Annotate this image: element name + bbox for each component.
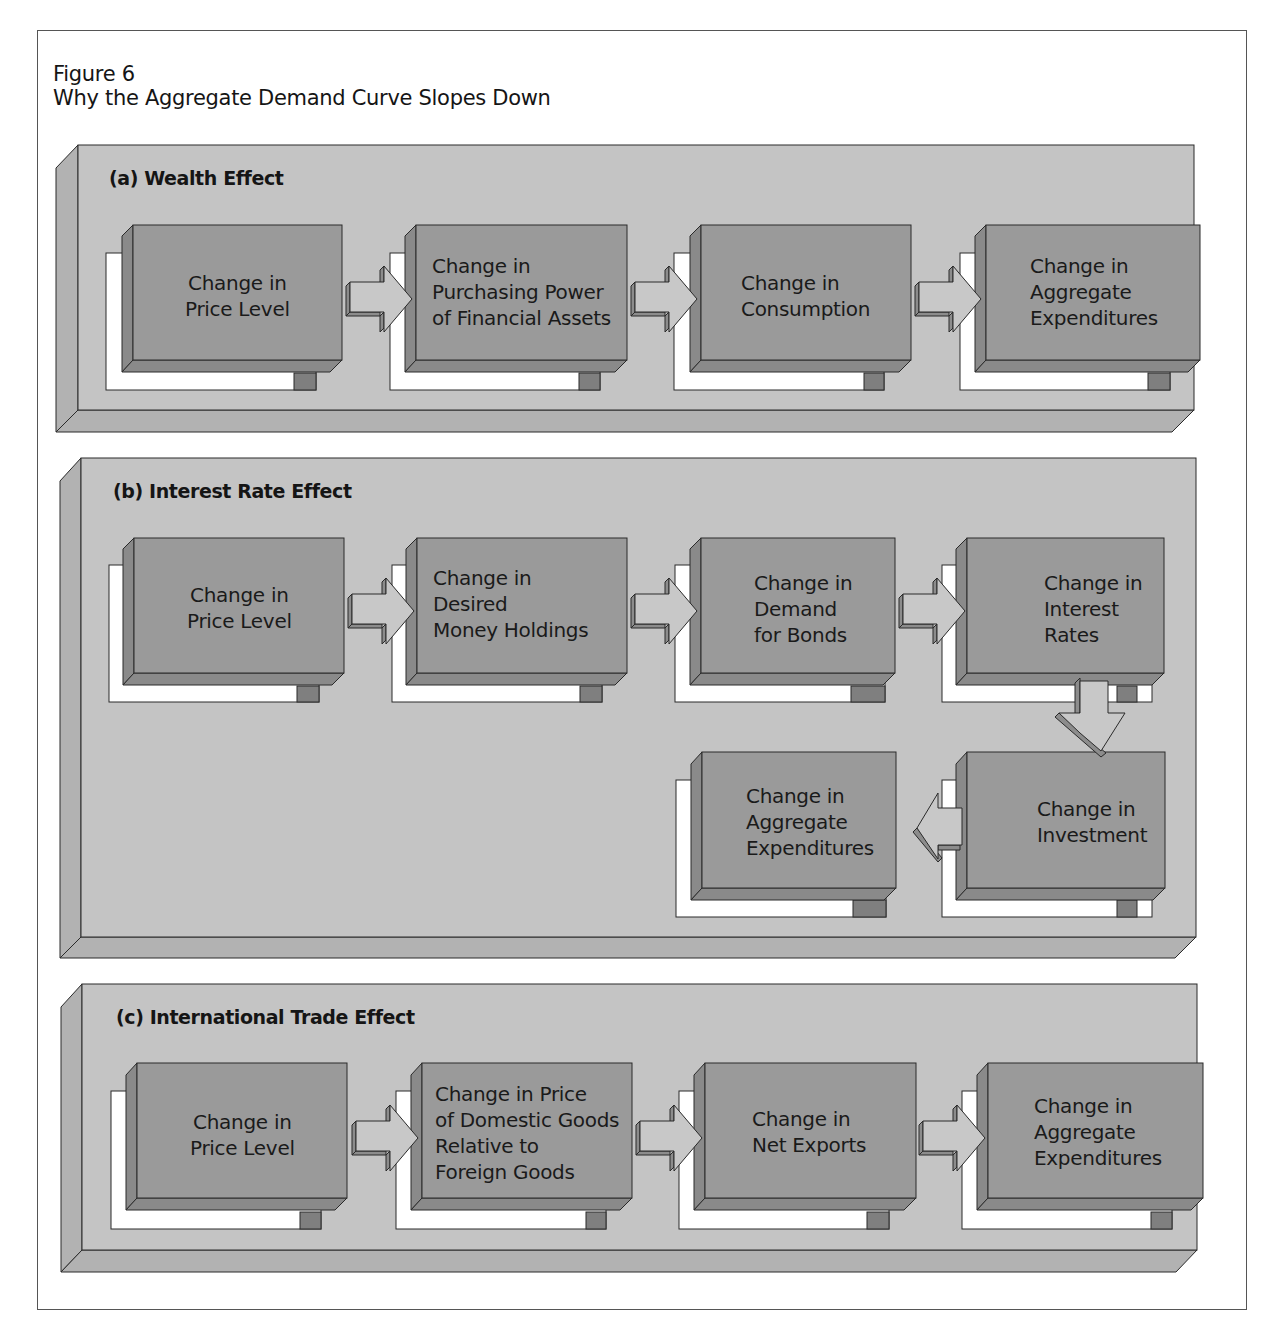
- panel-b-title: (b) Interest Rate Effect: [113, 480, 352, 502]
- box-c-2-label: Change in Price of Domestic Goods Relati…: [435, 1081, 619, 1185]
- box-b-2-label: Change in Desired Money Holdings: [433, 565, 588, 643]
- box-b-3-label: Change in Demand for Bonds: [754, 570, 852, 648]
- box-a-4-label: Change in Aggregate Expenditures: [1030, 253, 1158, 331]
- box-b-6-label: Change in Aggregate Expenditures: [746, 783, 874, 861]
- box-a-2-label: Change in Purchasing Power of Financial …: [432, 253, 611, 331]
- box-b-4-label: Change in Interest Rates: [1044, 570, 1142, 648]
- box-a-3-label: Change in Consumption: [741, 270, 870, 322]
- box-c-1-label: Change in Price Level: [190, 1109, 295, 1161]
- panel-a-title: (a) Wealth Effect: [109, 167, 283, 189]
- box-b-5-label: Change in Investment: [1037, 796, 1147, 848]
- box-c-4-label: Change in Aggregate Expenditures: [1034, 1093, 1162, 1171]
- panel-c-title: (c) International Trade Effect: [116, 1006, 415, 1028]
- box-a-1-label: Change in Price Level: [185, 270, 290, 322]
- box-b-1-label: Change in Price Level: [187, 582, 292, 634]
- box-c-3-label: Change in Net Exports: [752, 1106, 866, 1158]
